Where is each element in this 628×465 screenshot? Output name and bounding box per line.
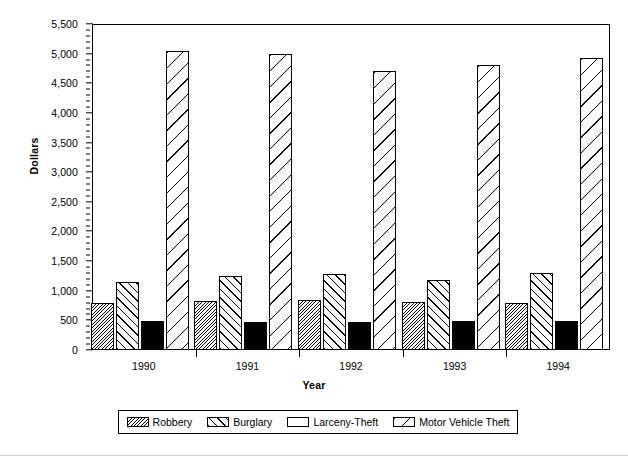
bar-burglary-1990 <box>116 282 139 350</box>
legend-label: Robbery <box>153 417 193 428</box>
y-axis-major-tick <box>86 171 93 172</box>
y-axis-tick-label: 2,500 <box>51 196 78 208</box>
bar-motor-vehicle-theft-1993 <box>477 65 500 350</box>
y-axis-minor-tick <box>86 29 90 30</box>
bar-motor-vehicle-theft-1994 <box>580 58 603 350</box>
bar-larceny-theft-1993 <box>452 321 475 350</box>
bar-larceny-theft-1990 <box>141 321 164 350</box>
y-axis-minor-tick <box>86 118 90 119</box>
bar-motor-vehicle-theft-1990 <box>166 51 189 350</box>
chart-legend: RobberyBurglaryLarceny-TheftMotor Vehicl… <box>118 410 518 434</box>
bar-robbery-1992 <box>298 300 321 350</box>
y-axis-minor-tick <box>86 47 90 48</box>
y-axis-tick-label: 2,000 <box>51 225 78 237</box>
y-axis-minor-tick <box>86 219 90 220</box>
bar-burglary-1993 <box>427 280 450 350</box>
y-axis-minor-tick <box>86 154 90 155</box>
y-axis-minor-tick <box>86 59 90 60</box>
y-axis-tick-label: 0 <box>72 344 78 356</box>
y-axis-minor-tick <box>86 178 90 179</box>
y-axis-major-tick <box>86 290 93 291</box>
bar-motor-vehicle-theft-1991 <box>269 54 292 350</box>
x-axis-tick <box>299 350 300 357</box>
y-axis-minor-tick <box>86 124 90 125</box>
legend-swatch-icon <box>393 417 415 427</box>
y-axis-minor-tick <box>86 255 90 256</box>
y-axis-minor-tick <box>86 308 90 309</box>
y-axis-minor-tick <box>86 207 90 208</box>
y-axis-major-tick <box>86 112 93 113</box>
y-axis-minor-tick <box>86 166 90 167</box>
legend-label: Burglary <box>233 417 272 428</box>
y-axis-minor-tick <box>86 237 90 238</box>
y-axis-tick-label: 5,500 <box>51 18 78 30</box>
y-axis-tick-label: 4,500 <box>51 77 78 89</box>
y-axis-minor-tick <box>86 65 90 66</box>
bar-robbery-1994 <box>505 303 528 350</box>
y-axis-tick-label: 3,000 <box>51 166 78 178</box>
y-axis-major-tick <box>86 201 93 202</box>
legend-item-motor-vehicle-theft: Motor Vehicle Theft <box>393 417 509 428</box>
y-axis-minor-tick <box>86 314 90 315</box>
legend-label: Motor Vehicle Theft <box>419 417 509 428</box>
bar-burglary-1994 <box>530 273 553 350</box>
y-axis-minor-tick <box>86 35 90 36</box>
y-axis-minor-tick <box>86 284 90 285</box>
y-axis-minor-tick <box>86 302 90 303</box>
legend-swatch-icon <box>287 417 309 427</box>
y-axis-tick-label: 5,000 <box>51 48 78 60</box>
x-axis-tick-label: 1991 <box>236 360 259 372</box>
y-axis-tick-label: 1,000 <box>51 285 78 297</box>
y-axis-major-tick <box>86 83 93 84</box>
y-axis-minor-tick <box>86 95 90 96</box>
bar-robbery-1991 <box>194 301 217 350</box>
y-axis-minor-tick <box>86 213 90 214</box>
y-axis-minor-tick <box>86 326 90 327</box>
y-axis-major-tick <box>86 53 93 54</box>
y-axis-major-tick <box>86 23 93 24</box>
x-axis-tick <box>403 350 404 357</box>
legend-item-robbery: Robbery <box>127 417 193 428</box>
bar-robbery-1990 <box>91 303 114 350</box>
y-axis-minor-tick <box>86 344 90 345</box>
y-axis: 05001,0001,5002,0002,5003,0003,5004,0004… <box>0 24 86 350</box>
bar-larceny-theft-1994 <box>555 321 578 350</box>
legend-label: Larceny-Theft <box>313 417 378 428</box>
x-axis-tick-label: 1992 <box>339 360 362 372</box>
x-axis-tick <box>506 350 507 357</box>
x-axis-tick-label: 1994 <box>547 360 570 372</box>
bar-motor-vehicle-theft-1992 <box>373 71 396 350</box>
y-axis-minor-tick <box>86 160 90 161</box>
y-axis-tick-label: 500 <box>60 314 78 326</box>
y-axis-minor-tick <box>86 296 90 297</box>
y-axis-tick-label: 4,000 <box>51 107 78 119</box>
y-axis-tick-label: 1,500 <box>51 255 78 267</box>
y-axis-minor-tick <box>86 71 90 72</box>
y-axis-minor-tick <box>86 106 90 107</box>
y-axis-minor-tick <box>86 332 90 333</box>
y-axis-minor-tick <box>86 77 90 78</box>
bar-burglary-1991 <box>219 276 242 350</box>
bar-chart-figure: 05001,0001,5002,0002,5003,0003,5004,0004… <box>0 0 628 465</box>
y-axis-minor-tick <box>86 249 90 250</box>
y-axis-minor-tick <box>86 195 90 196</box>
y-axis-minor-tick <box>86 267 90 268</box>
y-axis-title: Dollars <box>28 116 40 196</box>
legend-item-burglary: Burglary <box>207 417 272 428</box>
y-axis-minor-tick <box>86 189 90 190</box>
legend-swatch-icon <box>127 417 149 427</box>
y-axis-minor-tick <box>86 130 90 131</box>
x-axis-tick-label: 1993 <box>443 360 466 372</box>
y-axis-minor-tick <box>86 338 90 339</box>
y-axis-tick-label: 3,500 <box>51 137 78 149</box>
legend-swatch-icon <box>207 417 229 427</box>
bar-burglary-1992 <box>323 274 346 350</box>
legend-item-larceny-theft: Larceny-Theft <box>287 417 378 428</box>
x-axis-tick-label: 1990 <box>132 360 155 372</box>
y-axis-minor-tick <box>86 89 90 90</box>
bar-robbery-1993 <box>402 302 425 350</box>
bar-larceny-theft-1992 <box>348 322 371 350</box>
y-axis-minor-tick <box>86 101 90 102</box>
y-axis-minor-tick <box>86 136 90 137</box>
y-axis-major-tick <box>86 142 93 143</box>
